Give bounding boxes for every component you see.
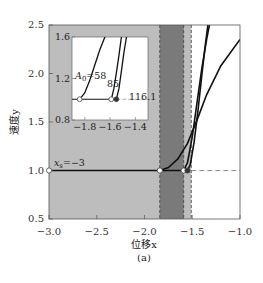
y-axis-label: 速度y [8,109,20,135]
open-marker [157,168,162,173]
tick-label: −1.0 [228,226,252,237]
inset-open-marker [109,97,114,102]
dark-shaded-band [160,25,184,219]
open-marker [46,168,51,173]
x-axis-label: 位移x [131,238,157,250]
inset-open-marker [77,97,82,102]
tick-label: 1.0 [28,165,44,176]
inset-tick-label: −1.8 [73,121,96,132]
filled-marker [185,168,190,173]
figure: xs=−3−1.8−1.6−1.40.81.21.6A0=5885116.1 −… [0,0,263,283]
tick-label: 0.5 [28,213,44,224]
inset-tick-label: 1.2 [55,73,70,84]
inset-tick-label: 0.8 [55,114,70,125]
inset-filled-marker [114,97,119,102]
inset-tick-label: −1.6 [98,121,121,132]
inset-label-116: 116.1 [129,91,156,102]
tick-label: 2.0 [28,68,44,79]
tick-label: 2.5 [28,19,44,30]
tick-label: −3.0 [37,226,61,237]
tick-label: −2.5 [85,226,109,237]
tick-label: −2.0 [132,226,156,237]
inset-tick-label: 1.6 [55,31,70,42]
figure-caption: (a) [137,252,151,263]
inset-label-85: 85 [107,78,119,89]
inset-tick-label: −1.4 [124,121,147,132]
main-chart: xs=−3−1.8−1.6−1.40.81.21.6A0=5885116.1 [46,13,240,219]
tick-label: 1.5 [28,116,44,127]
tick-label: −1.5 [180,226,204,237]
